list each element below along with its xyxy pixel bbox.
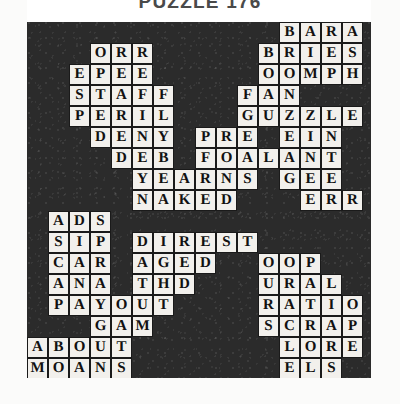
crossword-cell[interactable]: A xyxy=(48,211,69,232)
crossword-cell[interactable]: D xyxy=(111,148,132,169)
crossword-cell[interactable]: R xyxy=(279,43,300,64)
crossword-cell[interactable]: D xyxy=(90,127,111,148)
crossword-cell[interactable]: N xyxy=(279,85,300,106)
crossword-cell[interactable]: A xyxy=(321,316,342,337)
crossword-cell[interactable]: T xyxy=(237,232,258,253)
crossword-cell[interactable]: R xyxy=(174,232,195,253)
crossword-cell[interactable]: E xyxy=(237,127,258,148)
crossword-cell[interactable]: S xyxy=(321,358,342,378)
crossword-cell[interactable]: Y xyxy=(132,169,153,190)
crossword-cell[interactable]: A xyxy=(300,274,321,295)
crossword-cell[interactable]: A xyxy=(174,169,195,190)
crossword-cell[interactable]: Y xyxy=(90,295,111,316)
crossword-cell[interactable]: P xyxy=(195,127,216,148)
crossword-cell[interactable]: D xyxy=(69,211,90,232)
crossword-cell[interactable]: R xyxy=(321,337,342,358)
crossword-cell[interactable]: P xyxy=(321,64,342,85)
crossword-cell[interactable]: D xyxy=(132,232,153,253)
crossword-cell[interactable]: A xyxy=(342,22,363,43)
crossword-cell[interactable]: H xyxy=(153,274,174,295)
crossword-cell[interactable]: E xyxy=(321,169,342,190)
crossword-cell[interactable]: D xyxy=(174,274,195,295)
crossword-cell[interactable]: P xyxy=(300,253,321,274)
crossword-cell[interactable]: Y xyxy=(153,127,174,148)
crossword-cell[interactable]: E xyxy=(132,148,153,169)
crossword-cell[interactable]: E xyxy=(195,190,216,211)
crossword-cell[interactable]: E xyxy=(321,43,342,64)
crossword-cell[interactable]: K xyxy=(174,190,195,211)
crossword-cell[interactable]: O xyxy=(111,295,132,316)
crossword-cell[interactable]: R xyxy=(321,190,342,211)
crossword-cell[interactable]: L xyxy=(321,106,342,127)
crossword-cell[interactable]: A xyxy=(279,148,300,169)
crossword-cell[interactable]: A xyxy=(111,316,132,337)
crossword-cell[interactable]: T xyxy=(111,337,132,358)
crossword-cell[interactable]: L xyxy=(153,106,174,127)
crossword-cell[interactable]: A xyxy=(48,274,69,295)
crossword-cell[interactable]: N xyxy=(132,127,153,148)
crossword-cell[interactable]: T xyxy=(153,295,174,316)
crossword-cell[interactable]: A xyxy=(279,295,300,316)
crossword-cell[interactable]: I xyxy=(300,43,321,64)
crossword-cell[interactable]: H xyxy=(342,64,363,85)
crossword-cell[interactable]: R xyxy=(216,127,237,148)
crossword-cell[interactable]: N xyxy=(69,274,90,295)
crossword-cell[interactable]: F xyxy=(132,85,153,106)
crossword-cell[interactable]: E xyxy=(195,232,216,253)
crossword-cell[interactable]: C xyxy=(48,253,69,274)
crossword-cell[interactable]: A xyxy=(153,190,174,211)
crossword-cell[interactable]: I xyxy=(69,232,90,253)
crossword-cell[interactable]: R xyxy=(321,22,342,43)
crossword-cell[interactable]: T xyxy=(90,85,111,106)
crossword-cell[interactable]: E xyxy=(132,64,153,85)
crossword-cell[interactable]: U xyxy=(258,106,279,127)
crossword-cell[interactable]: P xyxy=(342,316,363,337)
crossword-cell[interactable]: F xyxy=(237,85,258,106)
crossword-cell[interactable]: R xyxy=(279,274,300,295)
crossword-cell[interactable]: L xyxy=(321,274,342,295)
crossword-cell[interactable]: T xyxy=(300,295,321,316)
crossword-grid[interactable]: BARAORRBRIESEPEEOOMPHSTAFFFANPERILGUZZLE… xyxy=(27,22,371,378)
crossword-cell[interactable]: O xyxy=(48,358,69,378)
crossword-cell[interactable]: Z xyxy=(300,106,321,127)
crossword-cell[interactable]: S xyxy=(216,232,237,253)
crossword-cell[interactable]: E xyxy=(111,127,132,148)
crossword-cell[interactable]: G xyxy=(237,106,258,127)
crossword-cell[interactable]: R xyxy=(300,316,321,337)
crossword-cell[interactable]: R xyxy=(90,253,111,274)
crossword-cell[interactable]: R xyxy=(111,43,132,64)
crossword-cell[interactable]: S xyxy=(90,211,111,232)
crossword-cell[interactable]: G xyxy=(90,316,111,337)
crossword-cell[interactable]: O xyxy=(342,295,363,316)
crossword-cell[interactable]: G xyxy=(279,169,300,190)
crossword-cell[interactable]: R xyxy=(111,106,132,127)
crossword-cell[interactable]: E xyxy=(111,64,132,85)
crossword-cell[interactable]: D xyxy=(216,190,237,211)
crossword-cell[interactable]: E xyxy=(90,106,111,127)
crossword-cell[interactable]: T xyxy=(321,148,342,169)
crossword-cell[interactable]: Z xyxy=(279,106,300,127)
crossword-cell[interactable]: R xyxy=(195,169,216,190)
crossword-cell[interactable]: A xyxy=(258,85,279,106)
crossword-cell[interactable]: A xyxy=(69,253,90,274)
crossword-cell[interactable]: U xyxy=(132,295,153,316)
crossword-cell[interactable]: I xyxy=(153,232,174,253)
crossword-cell[interactable]: E xyxy=(342,337,363,358)
crossword-cell[interactable]: A xyxy=(237,148,258,169)
crossword-cell[interactable]: N xyxy=(90,358,111,378)
crossword-cell[interactable]: D xyxy=(195,253,216,274)
crossword-cell[interactable]: P xyxy=(90,64,111,85)
crossword-cell[interactable]: S xyxy=(342,43,363,64)
crossword-cell[interactable]: N xyxy=(132,190,153,211)
crossword-cell[interactable]: A xyxy=(69,358,90,378)
crossword-cell[interactable]: E xyxy=(279,127,300,148)
crossword-cell[interactable]: B xyxy=(279,22,300,43)
crossword-cell[interactable]: O xyxy=(279,64,300,85)
crossword-cell[interactable]: L xyxy=(258,148,279,169)
crossword-cell[interactable]: S xyxy=(111,358,132,378)
crossword-cell[interactable]: I xyxy=(300,127,321,148)
crossword-cell[interactable]: N xyxy=(300,148,321,169)
crossword-cell[interactable]: U xyxy=(258,274,279,295)
crossword-cell[interactable]: E xyxy=(342,106,363,127)
crossword-cell[interactable]: P xyxy=(69,106,90,127)
